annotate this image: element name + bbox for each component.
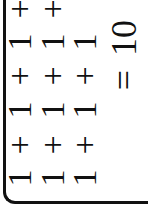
plus-sign: + (36, 135, 70, 154)
digit-one: 1 (68, 102, 102, 119)
digit-one: 1 (36, 34, 70, 51)
digit-one: 1 (68, 34, 102, 51)
digit-one: 1 (3, 34, 37, 51)
digit-one: 1 (36, 102, 70, 119)
digit-one: 1 (3, 102, 37, 119)
digit-one: 1 (3, 170, 37, 187)
plus-sign: + (36, 66, 70, 85)
digit-one: 1 (36, 170, 70, 187)
digit-one: 1 (68, 170, 102, 187)
equals-sign: = (106, 70, 142, 90)
plus-sign: + (68, 135, 102, 154)
plus-sign: + (3, 66, 37, 85)
plus-sign: + (36, 0, 70, 19)
plus-sign: + (68, 66, 102, 85)
plus-sign: + (3, 0, 37, 19)
result-value: 10 (106, 20, 142, 56)
plus-sign: + (3, 135, 37, 154)
